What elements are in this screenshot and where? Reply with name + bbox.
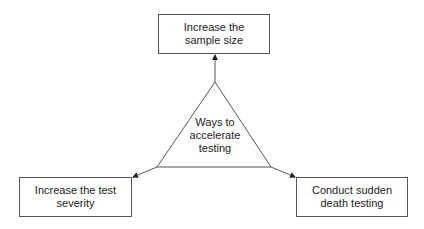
node-label: Increase the sample size [165, 21, 263, 47]
center-label-line: Ways to [175, 116, 255, 129]
arrow-to-right [271, 167, 295, 177]
node-increase-test-severity: Increase the test severity [19, 177, 132, 217]
center-label-line: testing [175, 142, 255, 155]
center-label: Ways to accelerate testing [175, 116, 255, 155]
node-label: Increase the test severity [28, 184, 123, 210]
node-label: Conduct sudden death testing [305, 184, 399, 210]
arrow-to-left [133, 167, 157, 177]
center-label-line: accelerate [175, 129, 255, 142]
node-increase-sample-size: Increase the sample size [158, 14, 270, 54]
node-sudden-death-testing: Conduct sudden death testing [296, 177, 408, 217]
